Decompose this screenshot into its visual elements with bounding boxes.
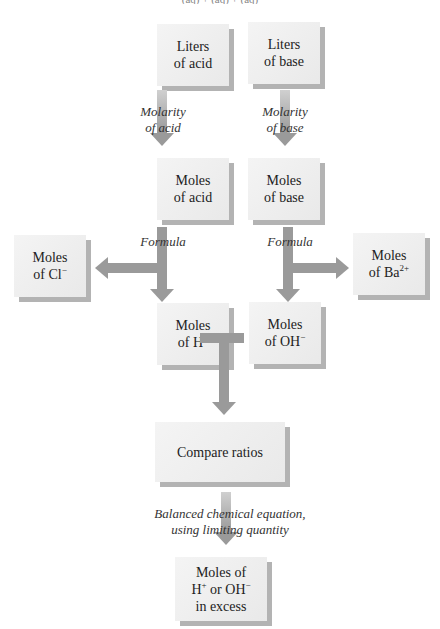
t-connector-bar <box>200 333 244 343</box>
arrow-left-icon <box>95 257 108 279</box>
label-formula-acid: Formula <box>138 234 188 250</box>
label-molarity-acid: Molarity of acid <box>128 104 198 136</box>
box-label: Molesof Cl− <box>33 249 68 283</box>
box-compare-ratios: Compare ratios <box>155 422 285 482</box>
box-label: Liters of base <box>264 36 304 70</box>
box-label: Moles ofH+ or OH−in excess <box>191 564 250 615</box>
box-moles-in-excess: Moles ofH+ or OH−in excess <box>175 557 267 621</box>
arrow-right-icon <box>336 257 349 279</box>
box-moles-of-oh: Molesof OH− <box>249 302 321 364</box>
box-label: Moles of base <box>264 172 304 206</box>
box-moles-of-acid: Moles of acid <box>157 158 229 220</box>
box-label: Compare ratios <box>177 444 263 461</box>
arrow-down-icon <box>150 289 174 302</box>
box-label: Liters of acid <box>174 38 212 72</box>
box-label: Molesof OH− <box>265 316 305 350</box>
label-molarity-base: Molarity of base <box>250 104 320 136</box>
box-moles-of-ba: Molesof Ba2+ <box>353 233 425 295</box>
box-label: Moles of acid <box>174 172 212 206</box>
t-connector-stem <box>219 343 229 403</box>
label-balanced-equation: Balanced chemical equation, using limiti… <box>150 506 310 538</box>
box-liters-of-acid: Liters of acid <box>157 24 229 86</box>
box-label: Molesof Ba2+ <box>369 247 409 281</box>
arrow-down-icon <box>276 289 300 302</box>
header-fragment: (aq) + (aq) + (aq) <box>140 0 300 4</box>
box-liters-of-base: Liters of base <box>248 22 320 84</box>
arrow-to-ba-shaft <box>292 263 336 273</box>
box-moles-of-base: Moles of base <box>248 158 320 220</box>
arrow-to-cl-shaft <box>108 263 160 273</box>
arrow-down-icon <box>212 402 236 415</box>
label-formula-base: Formula <box>265 234 315 250</box>
box-moles-of-cl: Molesof Cl− <box>14 235 86 297</box>
